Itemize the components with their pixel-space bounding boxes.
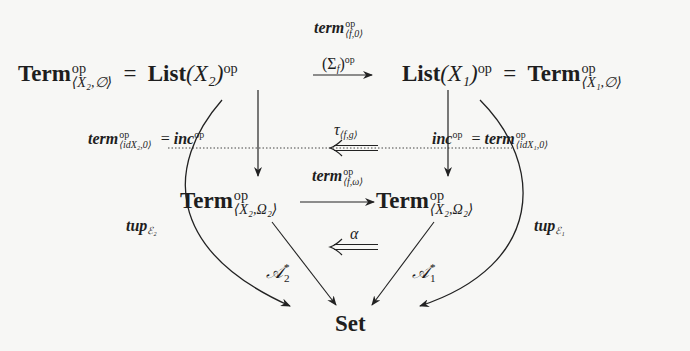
equals: = [471, 130, 480, 147]
sup-op: op [223, 60, 237, 76]
sub-1: 1 [430, 273, 436, 284]
list-bold: List [148, 61, 186, 86]
node-set: Set [335, 312, 366, 335]
node-mid-left: Termop⟨X₂,Ω₂⟩ [180, 188, 277, 217]
inc: inc [432, 130, 452, 147]
label-term-f0: termop⟨f,0⟩ [314, 19, 363, 39]
sub-index: ⟨X₁,∅⟩ [581, 75, 621, 89]
label-term-fw: termop⟨f,ω⟩ [312, 167, 363, 187]
sub-f: f [337, 63, 340, 74]
tau: τ [334, 121, 340, 138]
inc: inc [174, 130, 194, 147]
sub-index: ⟨f,ω⟩ [343, 177, 363, 187]
label-tau: τ⟨f,g⟩ [334, 122, 358, 138]
term-bold: Term [376, 188, 429, 213]
sub-e2: ℰ₂ [147, 225, 156, 236]
term-bold: Term [180, 188, 233, 213]
sub-pre: ⟨id [119, 139, 131, 150]
sub-post: ,0⟩ [140, 139, 151, 150]
sup-op: op [345, 54, 355, 65]
node-top-right: List(X₁)op = Termop⟨X₁,∅⟩ [402, 61, 622, 90]
equals: = [123, 61, 136, 86]
label-term-id-x2: termop⟨idX₂,0⟩ =incop [88, 130, 204, 150]
tup: tup [126, 217, 147, 234]
label-main: term [484, 130, 514, 147]
label-tup-e1: tupℰ₁ [534, 218, 565, 234]
sub-index: ⟨X₂,Ω₂⟩ [234, 202, 278, 216]
equals: = [503, 61, 516, 86]
sup-op: op [452, 129, 462, 140]
sub-index: ⟨X₂,∅⟩ [72, 75, 112, 89]
label-sigma-f: (Σf)op [322, 56, 355, 72]
label-a2-star: 𝒜*2 [266, 262, 290, 284]
script-a: 𝒜 [266, 262, 283, 282]
sub-x: X₁ [527, 139, 537, 150]
label-a1-star: 𝒜*1 [412, 262, 436, 284]
alpha: α [350, 225, 358, 242]
sub-e1: ℰ₁ [555, 225, 564, 236]
term-bold: Term [528, 61, 581, 86]
sup-op: op [581, 61, 621, 75]
label-main: term [312, 167, 342, 184]
label-alpha: α [350, 226, 358, 242]
sup-op: op [430, 188, 474, 202]
sub-2: 2 [284, 273, 290, 284]
node-top-left: Termop⟨X₂,∅⟩ = List(X₂)op [18, 61, 238, 90]
paren: ) [339, 55, 344, 72]
script-a: 𝒜 [412, 262, 429, 282]
equals: = [161, 130, 170, 147]
sub-pre: ⟨id [516, 139, 528, 150]
sub-x: X₂ [131, 139, 141, 150]
label-tup-e2: tupℰ₂ [126, 218, 157, 234]
sup-op: op [478, 60, 492, 76]
sigma: (Σ [322, 55, 337, 72]
sub-index: ⟨X₂,Ω₂⟩ [430, 202, 474, 216]
sub-index: ⟨f,0⟩ [345, 29, 363, 39]
label-inc-right: incop =termop⟨idX₁,0⟩ [432, 130, 548, 150]
sub-post: ,0⟩ [537, 139, 548, 150]
sup-op: op [194, 129, 204, 140]
label-main: term [88, 130, 118, 147]
list-arg: (X₂) [186, 61, 223, 86]
list-arg: (X₁) [440, 61, 477, 86]
node-mid-right: Termop⟨X₂,Ω₂⟩ [376, 188, 473, 217]
sub-fg: ⟨f,g⟩ [340, 129, 358, 140]
sup-op: op [234, 188, 278, 202]
term-bold: Term [18, 61, 71, 86]
list-bold: List [402, 61, 440, 86]
tup: tup [534, 217, 555, 234]
sup-op: op [72, 61, 112, 75]
label-main: term [314, 19, 344, 36]
